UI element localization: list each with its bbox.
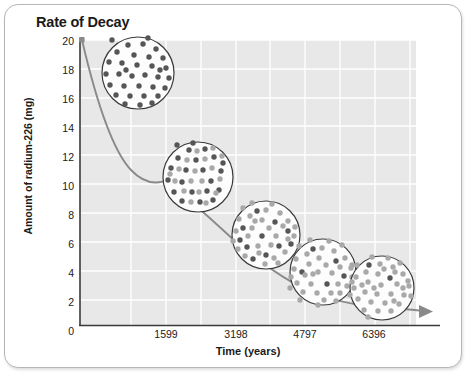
data-point-0 xyxy=(79,37,85,43)
plot-svg xyxy=(0,0,475,390)
figure-container: Rate of Decay Amount of radium-226 (mg) … xyxy=(0,0,475,390)
curve-arrowhead xyxy=(419,305,433,318)
